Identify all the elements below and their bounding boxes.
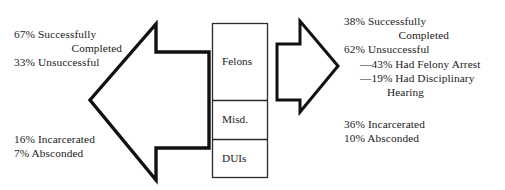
right-primary-line-1: 38% Successfully — [344, 14, 481, 28]
right-primary-outcomes: 38% Successfully Completed 62% Unsuccess… — [344, 14, 481, 99]
left-primary-line-3: 33% Unsuccessful — [14, 55, 122, 69]
right-secondary-line-1: 36% Incarcerated — [344, 117, 425, 131]
segment-label-felons: Felons — [222, 55, 252, 68]
right-secondary-line-2: 10% Absconded — [344, 131, 425, 145]
right-primary-line-6: Hearing — [344, 85, 481, 99]
segment-label-misd: Misd. — [222, 113, 248, 126]
left-primary-line-1: 67% Successfully — [14, 27, 122, 41]
segment-label-duis: DUIs — [222, 152, 246, 165]
left-primary-line-2: Completed — [14, 41, 122, 55]
right-secondary-outcomes: 36% Incarcerated 10% Absconded — [344, 117, 425, 145]
left-secondary-outcomes: 16% Incarcerated 7% Absconded — [14, 132, 95, 160]
left-primary-outcomes: 67% Successfully Completed 33% Unsuccess… — [14, 27, 122, 70]
right-primary-line-5: —19% Had Disciplinary — [344, 71, 481, 85]
right-outcome-arrow — [277, 21, 338, 112]
right-primary-line-4: —43% Had Felony Arrest — [344, 57, 481, 71]
right-primary-line-3: 62% Unsuccessful — [344, 42, 481, 56]
left-secondary-line-1: 16% Incarcerated — [14, 132, 95, 146]
left-secondary-line-2: 7% Absconded — [14, 146, 95, 160]
diagram-canvas: Felons Misd. DUIs 67% Successfully Compl… — [0, 0, 505, 190]
right-primary-line-2: Completed — [344, 28, 449, 42]
